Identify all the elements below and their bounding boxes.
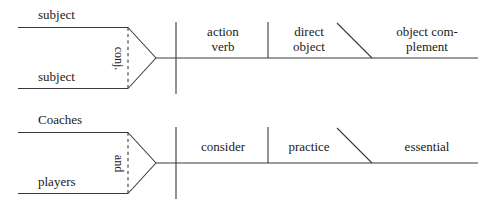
subject-upper-arm: [128, 28, 156, 59]
label-complement-line1: object com-: [378, 24, 476, 39]
label-object-line2: object: [274, 39, 344, 54]
label-subject-upper-2: Coaches: [38, 113, 128, 127]
subject-upper-arm-2: [128, 133, 156, 164]
label-complement-line1-2: essential: [378, 140, 476, 154]
sentence-diagram-figure: subject subject conj. action verb direct…: [0, 0, 490, 209]
label-complement-line2: plement: [378, 39, 476, 54]
label-subject-upper: subject: [38, 8, 128, 22]
label-conjunction-2: and: [111, 138, 126, 190]
label-verb-line1: action: [182, 24, 264, 39]
label-conjunction: conj.: [111, 29, 126, 89]
label-verb-line1-2: consider: [182, 140, 264, 154]
label-verb-line2: verb: [182, 39, 264, 54]
label-object-line1: direct: [274, 24, 344, 39]
label-object-line1-2: practice: [274, 140, 344, 154]
subject-lower-arm-2: [128, 163, 156, 194]
subject-lower-arm: [128, 58, 156, 89]
